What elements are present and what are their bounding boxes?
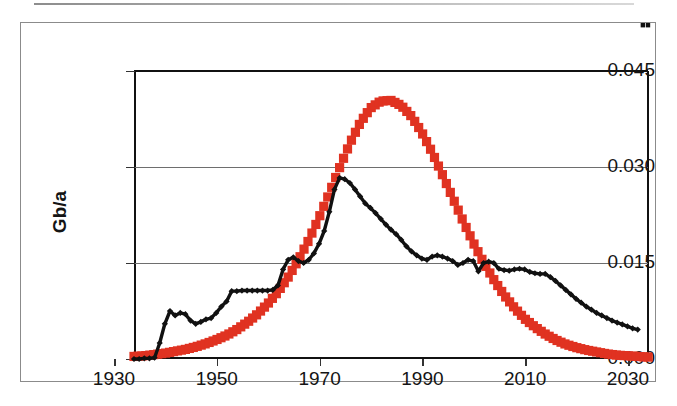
y-axis-tick-label: 0.045 bbox=[563, 59, 655, 81]
y-tick-mark-0000 bbox=[126, 359, 135, 360]
figure-frame: 0.045 0.030 0.015 0.000 Gb/a 19301950197… bbox=[20, 22, 656, 382]
x-axis-tick-label: 1950 bbox=[172, 368, 262, 390]
y-tick-mark-0045 bbox=[126, 71, 135, 72]
x-tick-mark bbox=[114, 359, 116, 366]
x-axis-tick-label: 2030 bbox=[583, 368, 673, 390]
x-tick-mark bbox=[320, 359, 322, 366]
x-tick-mark bbox=[525, 359, 527, 366]
y-axis-title: Gb/a bbox=[49, 167, 71, 257]
x-axis-tick-label: 1970 bbox=[275, 368, 365, 390]
x-tick-mark bbox=[422, 359, 424, 366]
y-axis-tick-label: 0.000 bbox=[563, 347, 655, 369]
x-axis-tick-label: 1990 bbox=[377, 368, 467, 390]
plot-right-border bbox=[647, 71, 649, 360]
x-tick-mark bbox=[217, 359, 219, 366]
x-axis-tick-label: 1930 bbox=[69, 368, 159, 390]
plot-area bbox=[134, 71, 648, 359]
y-tick-mark-0030 bbox=[126, 167, 135, 168]
x-tick-mark bbox=[628, 359, 630, 366]
y-axis-tick-label: 0.030 bbox=[563, 155, 655, 177]
y-axis-tick-label: 0.015 bbox=[563, 251, 655, 273]
y-tick-mark-0015 bbox=[126, 263, 135, 264]
x-axis-tick-label: 2010 bbox=[480, 368, 570, 390]
scan-artifact-line bbox=[34, 3, 634, 5]
